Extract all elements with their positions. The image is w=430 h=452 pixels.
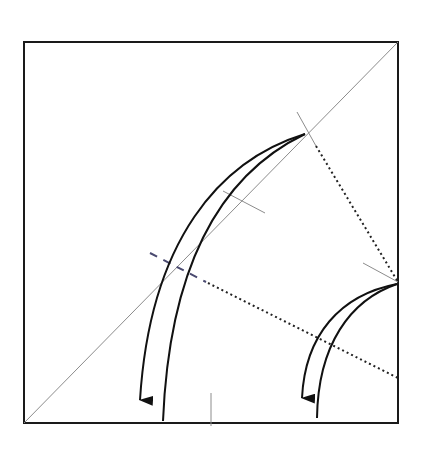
origami-diagram (0, 0, 430, 452)
diagram-canvas (0, 0, 430, 452)
